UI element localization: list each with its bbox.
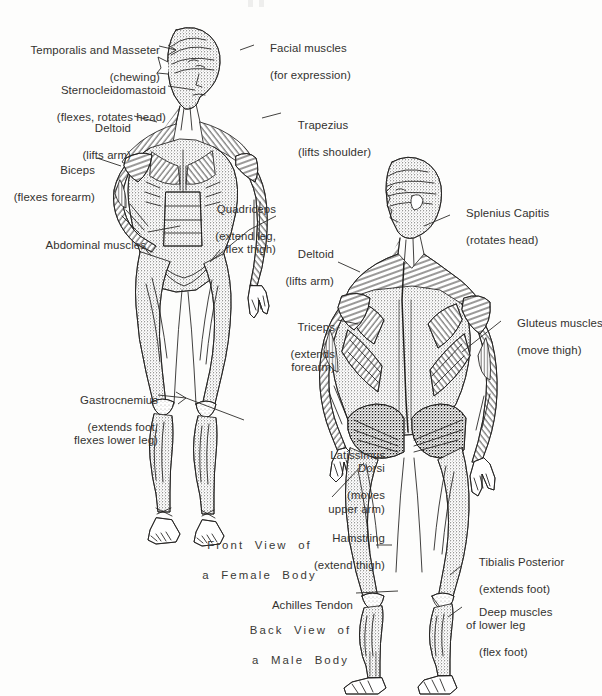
label-triceps-function: (extendsforearm): [291, 348, 336, 374]
label-splenius-capitis-function: (rotates head): [466, 234, 538, 246]
label-trapezius-function: (lifts shoulder): [298, 146, 371, 158]
label-gastrocnemius-name: Gastrocnemius: [80, 394, 158, 406]
label-deep-muscles-lower-leg-name: Deep musclesof lower leg: [466, 606, 552, 632]
label-deltoid-back-function: (lifts arm): [285, 275, 334, 287]
label-deep-muscles-lower-leg: Deep musclesof lower leg (flex foot): [466, 592, 586, 674]
label-triceps: Triceps (extendsforearm): [255, 307, 335, 389]
label-trapezius: Trapezius (lifts shoulder): [285, 105, 405, 173]
front-view-caption-line2: a Female Body: [202, 569, 316, 581]
muscular-system-figure: Temporalis and Masseter (chewing) Facial…: [0, 0, 602, 696]
back-view-caption-line2: a Male Body: [252, 654, 349, 666]
label-gluteus-muscles: Gluteus muscles (move thigh): [504, 303, 602, 371]
label-deltoid-back-name: Deltoid: [298, 248, 334, 260]
front-view-caption-line1: Front View of: [207, 539, 312, 551]
back-view-caption-line1: Back View of: [250, 624, 351, 636]
page-bleed-artifact: [246, 0, 272, 7]
front-view-caption: Front View of a Female Body: [178, 523, 320, 598]
label-latissimus-dorsi: LatissimusDorsi (movesupper arm): [255, 435, 385, 530]
label-abdominal-muscles: Abdominal muscles: [0, 225, 146, 266]
label-gluteus-muscles-function: (move thigh): [517, 344, 582, 356]
label-gastrocnemius: Gastrocnemius (extends foot,flexes lower…: [0, 380, 158, 462]
label-facial-muscles: Facial muscles (for expression): [257, 28, 387, 96]
label-tibialis-posterior-name: Tibialis Posterior: [479, 556, 565, 568]
label-splenius-capitis-name: Splenius Capitis: [466, 207, 549, 219]
label-temporalis-masseter-name: Temporalis and Masseter: [30, 44, 160, 56]
label-quadriceps-name: Quadriceps: [217, 203, 276, 215]
label-abdominal-muscles-name: Abdominal muscles: [46, 239, 146, 251]
label-deltoid-front-name: Deltoid: [95, 122, 131, 134]
label-biceps: Biceps (flexes forearm): [0, 150, 95, 218]
label-gastrocnemius-function: (extends foot,flexes lower leg): [74, 421, 158, 447]
label-sternocleidomastoid-name: Sternocleidomastoid: [61, 84, 166, 96]
back-view-caption: Back View of a Male Body: [225, 608, 355, 683]
label-facial-muscles-name: Facial muscles: [270, 42, 347, 54]
label-latissimus-dorsi-name: LatissimusDorsi: [330, 449, 385, 475]
label-biceps-name: Biceps: [60, 164, 95, 176]
label-latissimus-dorsi-function: (movesupper arm): [328, 489, 385, 515]
label-hamstring-function: (extend thigh): [314, 559, 385, 571]
label-triceps-name: Triceps: [297, 321, 335, 333]
label-hamstring-name: Hamstring: [332, 532, 385, 544]
label-deep-muscles-lower-leg-function: (flex foot): [479, 646, 528, 658]
label-biceps-function: (flexes forearm): [14, 191, 95, 203]
label-splenius-capitis: Splenius Capitis (rotates head): [453, 193, 593, 261]
label-trapezius-name: Trapezius: [298, 119, 349, 131]
label-facial-muscles-function: (for expression): [270, 69, 351, 81]
label-gluteus-muscles-name: Gluteus muscles: [517, 317, 602, 329]
label-deltoid-back: Deltoid (lifts arm): [240, 234, 334, 302]
